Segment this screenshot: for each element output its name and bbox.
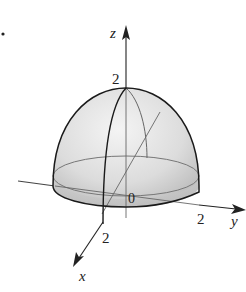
z-tick-label: 2 [112, 71, 120, 87]
y-axis [199, 205, 236, 209]
x-axis [79, 222, 103, 258]
z-axis-label: z [109, 25, 116, 41]
x-axis-label: x [78, 268, 86, 284]
dome-diagram: z 2 0 2 y 2 x [0, 0, 246, 292]
period-marker [1, 32, 4, 35]
y-tick-label: 2 [197, 211, 205, 227]
x-axis-arrow-icon [73, 252, 84, 267]
origin-label: 0 [128, 191, 135, 206]
y-axis-label: y [229, 213, 238, 229]
y-axis-back [18, 181, 55, 186]
x-tick-label: 2 [102, 230, 110, 246]
